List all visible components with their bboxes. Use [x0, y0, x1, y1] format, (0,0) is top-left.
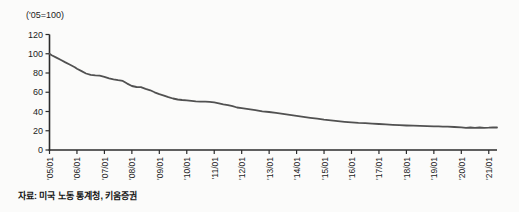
x-tick-label: '07/01 — [100, 157, 110, 180]
y-tick-label: 80 — [33, 68, 43, 78]
x-tick-label: '10/01 — [182, 157, 192, 180]
x-tick-label: '16/01 — [347, 157, 357, 180]
y-tick-label: 120 — [28, 30, 43, 40]
x-tick-label: '11/01 — [210, 157, 220, 180]
chart-figure: ('05=100) 020406080100120'05/01'06/01'07… — [0, 0, 519, 212]
source-note: 자료: 미국 노동 통계청, 키움증권 — [18, 189, 138, 202]
x-tick-label: '06/01 — [72, 157, 82, 180]
x-tick-label: '17/01 — [374, 157, 384, 180]
y-tick-label: 60 — [33, 87, 43, 97]
y-tick-label: 40 — [33, 107, 43, 117]
line-chart: 020406080100120'05/01'06/01'07/01'08/01'… — [0, 0, 519, 212]
x-tick-label: '12/01 — [237, 157, 247, 180]
x-tick-label: '14/01 — [292, 157, 302, 180]
data-line — [50, 54, 498, 128]
x-tick-label: '05/01 — [45, 157, 55, 180]
y-tick-label: 0 — [38, 145, 43, 155]
x-tick-label: '19/01 — [429, 157, 439, 180]
x-tick-label: '20/01 — [457, 157, 467, 180]
y-tick-label: 100 — [28, 49, 43, 59]
x-tick-label: '08/01 — [127, 157, 137, 180]
x-tick-label: '09/01 — [155, 157, 165, 180]
y-tick-label: 20 — [33, 126, 43, 136]
x-tick-label: '18/01 — [402, 157, 412, 180]
x-tick-label: '21/01 — [484, 157, 494, 180]
x-tick-label: '15/01 — [320, 157, 330, 180]
x-tick-label: '13/01 — [265, 157, 275, 180]
